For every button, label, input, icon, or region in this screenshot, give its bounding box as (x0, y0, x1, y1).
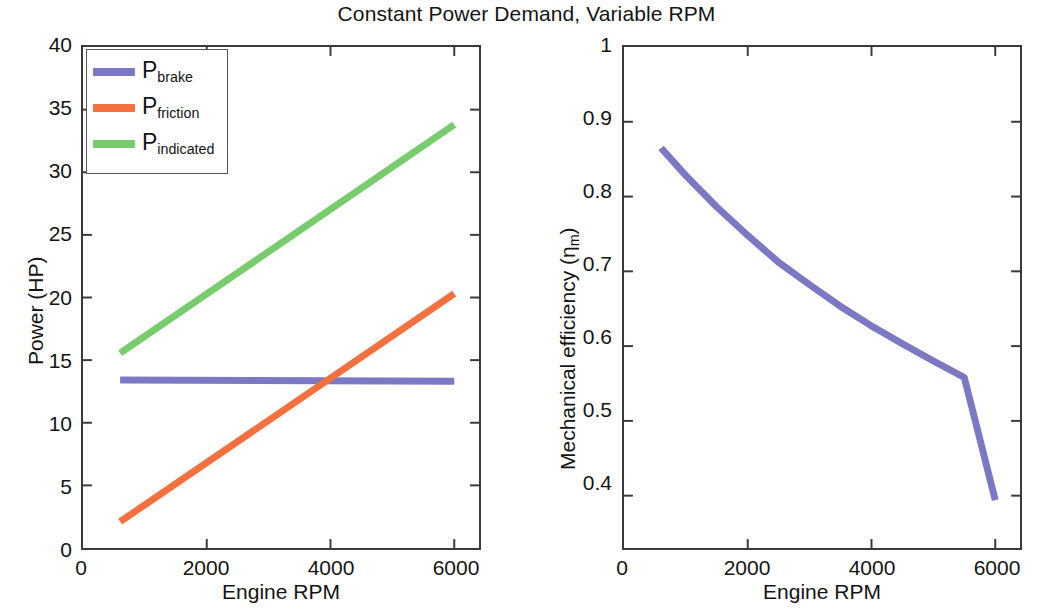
left-ytick-25: 25 (8, 222, 72, 246)
series-line-P_brake (120, 380, 454, 381)
left-ytick-40: 40 (8, 33, 72, 57)
left-ytick-5: 5 (8, 475, 72, 499)
left-ytick-10: 10 (8, 412, 72, 436)
left-xtick-6000: 6000 (433, 556, 480, 580)
left-ytick-30: 30 (8, 159, 72, 183)
legend-label-friction: Pfriction (142, 95, 199, 121)
series-line-P_friction (120, 294, 454, 522)
left-xtick-2000: 2000 (183, 556, 230, 580)
right-yaxis-title: Mechanical efficiency (ηm) (556, 227, 582, 470)
left-chart-legend: Pbrake Pfriction Pindicated (86, 49, 228, 174)
right-ytick-0_9: 0.9 (540, 106, 612, 130)
legend-item-friction[interactable]: Pfriction (93, 90, 219, 126)
figure-canvas: Constant Power Demand, Variable RPM 0 5 … (0, 0, 1053, 612)
left-xaxis-title: Engine RPM (222, 580, 340, 604)
left-xtick-4000: 4000 (308, 556, 355, 580)
right-xtick-6000: 6000 (974, 556, 1021, 580)
legend-item-brake[interactable]: Pbrake (93, 54, 219, 90)
legend-label-indicated: Pindicated (142, 131, 214, 157)
legend-item-indicated[interactable]: Pindicated (93, 126, 219, 162)
left-yaxis-title: Power (HP) (24, 256, 48, 365)
figure-title: Constant Power Demand, Variable RPM (0, 2, 1053, 26)
legend-swatch-brake (93, 68, 135, 76)
legend-swatch-indicated (93, 140, 135, 148)
series-line-Mechanical efficiency (661, 148, 995, 500)
right-xaxis-title: Engine RPM (763, 580, 881, 604)
legend-label-brake: Pbrake (142, 59, 193, 85)
legend-swatch-friction (93, 104, 135, 112)
left-ytick-35: 35 (8, 96, 72, 120)
right-ytick-0_8: 0.8 (540, 179, 612, 203)
right-ytick-0_4: 0.4 (540, 471, 612, 495)
left-ytick-0: 0 (8, 538, 72, 562)
right-chart-axes (622, 45, 1022, 550)
right-chart-plot-area (624, 47, 1020, 548)
right-xtick-4000: 4000 (849, 556, 896, 580)
right-xtick-2000: 2000 (724, 556, 771, 580)
right-ytick-1: 1 (540, 33, 612, 57)
left-xtick-0: 0 (75, 556, 87, 580)
right-xtick-0: 0 (616, 556, 628, 580)
